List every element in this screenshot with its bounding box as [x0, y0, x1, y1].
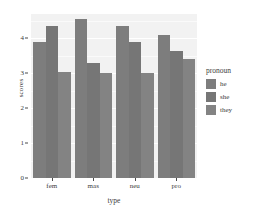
- legend-label: he: [220, 80, 227, 88]
- y-tick-label: 4: [21, 35, 25, 42]
- y-tick-label: 1: [21, 140, 25, 147]
- bar-pro-he: [158, 35, 171, 178]
- bar-neu-she: [129, 42, 142, 178]
- legend-item-they: they: [206, 104, 260, 116]
- bar-fem-she: [46, 26, 59, 178]
- bar-mas-they: [100, 73, 113, 178]
- legend-items: heshethey: [206, 78, 260, 116]
- bar-pro-she: [170, 51, 183, 178]
- bar-mas-she: [87, 63, 100, 178]
- y-tick-mark: [25, 143, 28, 144]
- legend-item-he: he: [206, 78, 260, 90]
- bar-mas-he: [75, 19, 88, 178]
- legend-label: they: [220, 106, 232, 114]
- x-tick-mark: [135, 178, 136, 181]
- bar-chart-figure: scores 01234 femmasneupro type pronoun h…: [0, 0, 262, 222]
- legend-title: pronoun: [206, 66, 260, 75]
- legend-swatch-she: [206, 92, 216, 102]
- y-tick-mark: [25, 73, 28, 74]
- x-tick-label: neu: [130, 182, 140, 190]
- y-tick-label: 0: [21, 175, 25, 182]
- bar-neu-they: [141, 73, 154, 178]
- x-axis-label: type: [31, 196, 197, 205]
- x-tick-mark: [176, 178, 177, 181]
- y-tick-mark: [25, 108, 28, 109]
- y-tick-mark: [25, 178, 28, 179]
- bar-pro-they: [183, 59, 196, 178]
- plot-panel: [31, 14, 197, 178]
- y-tick-label: 2: [21, 105, 25, 112]
- x-tick-label: fem: [46, 182, 57, 190]
- bar-neu-he: [116, 26, 129, 178]
- y-tick-mark: [25, 38, 28, 39]
- legend-swatch-he: [206, 79, 216, 89]
- bar-fem-he: [33, 42, 46, 178]
- x-tick-label: mas: [88, 182, 99, 190]
- bar-fem-they: [58, 72, 71, 178]
- x-axis-ticks: femmasneupro: [31, 178, 197, 194]
- x-tick-mark: [52, 178, 53, 181]
- x-tick-label: pro: [172, 182, 181, 190]
- x-tick-mark: [93, 178, 94, 181]
- legend-item-she: she: [206, 91, 260, 103]
- legend-swatch-they: [206, 105, 216, 115]
- y-tick-label: 3: [21, 70, 25, 77]
- bar-series-container: [31, 14, 197, 178]
- legend: pronoun heshethey: [206, 66, 260, 117]
- legend-label: she: [220, 93, 229, 101]
- y-axis-ticks: 01234: [14, 12, 28, 182]
